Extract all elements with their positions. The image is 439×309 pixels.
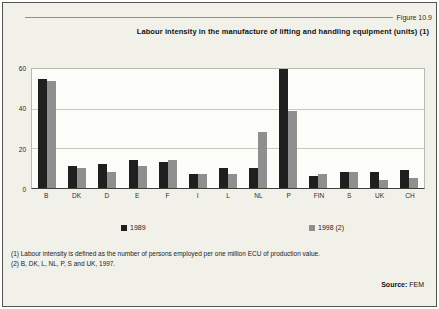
x-axis-labels: BDKDEFILNLPFINSUKCH [31, 192, 425, 199]
legend-swatch-1998 [309, 225, 315, 231]
bar-1998-P [288, 111, 297, 188]
x-label-I: I [183, 192, 213, 199]
bar-1998-D [107, 172, 116, 188]
x-label-S: S [334, 192, 364, 199]
bar-1989-P [279, 69, 288, 188]
legend-label-1998: 1998 (2) [318, 224, 344, 231]
y-tick-0: 0 [22, 186, 26, 193]
bar-group-DK [62, 69, 92, 188]
y-tick-20: 20 [19, 145, 26, 152]
legend-swatch-1989 [121, 225, 127, 231]
x-label-CH: CH [395, 192, 425, 199]
figure-header: Figure 10.9 [25, 14, 432, 21]
bar-1989-FIN [309, 176, 318, 188]
bar-1998-B [47, 81, 56, 188]
bar-1998-NL [258, 132, 267, 188]
bar-1998-E [138, 166, 147, 188]
bar-1998-I [198, 174, 207, 188]
bar-1989-I [189, 174, 198, 188]
bar-group-UK [364, 69, 394, 188]
bar-group-S [334, 69, 364, 188]
bar-1998-L [228, 174, 237, 188]
legend-label-1989: 1989 [130, 224, 146, 231]
x-label-DK: DK [61, 192, 91, 199]
x-label-D: D [92, 192, 122, 199]
bar-group-P [273, 69, 303, 188]
bar-group-FIN [303, 69, 333, 188]
source-label: Source: [381, 281, 407, 288]
bar-group-F [153, 69, 183, 188]
bar-1998-UK [379, 180, 388, 188]
bar-group-NL [243, 69, 273, 188]
source: Source: FEM [381, 281, 424, 288]
bar-1989-L [219, 168, 228, 188]
x-label-F: F [152, 192, 182, 199]
footnotes: (1) Labour intensity is defined as the n… [11, 249, 428, 268]
figure-number: Figure 10.9 [397, 14, 432, 21]
x-label-E: E [122, 192, 152, 199]
bar-1989-CH [400, 170, 409, 188]
x-label-FIN: FIN [304, 192, 334, 199]
x-label-B: B [31, 192, 61, 199]
bar-1998-FIN [318, 174, 327, 188]
footnote-1: (1) Labour intensity is defined as the n… [11, 249, 428, 259]
x-label-P: P [274, 192, 304, 199]
bar-group-I [183, 69, 213, 188]
legend-item-1989: 1989 [121, 224, 146, 231]
bar-1989-F [159, 162, 168, 188]
bar-1989-D [98, 164, 107, 188]
bar-1989-S [340, 172, 349, 188]
bar-1998-CH [409, 178, 418, 188]
bar-1989-NL [249, 168, 258, 188]
bar-group-CH [394, 69, 424, 188]
bar-1998-S [349, 172, 358, 188]
x-label-L: L [213, 192, 243, 199]
footnote-2: (2) B, DK, L, NL, P, S and UK, 1997. [11, 259, 428, 269]
bar-1989-B [38, 79, 47, 188]
bar-1998-DK [77, 168, 86, 188]
source-value: FEM [409, 281, 424, 288]
plot-area [31, 68, 425, 189]
y-tick-60: 60 [19, 65, 26, 72]
bar-group-D [92, 69, 122, 188]
bars-container [32, 69, 424, 188]
figure-frame: Figure 10.9 Labour intensity in the manu… [2, 2, 437, 307]
x-label-UK: UK [364, 192, 394, 199]
chart-title: Labour intensity in the manufacture of l… [137, 27, 429, 36]
bar-1989-UK [370, 172, 379, 188]
x-label-NL: NL [243, 192, 273, 199]
bar-group-B [32, 69, 62, 188]
y-axis: 0204060 [5, 68, 28, 189]
legend-item-1998: 1998 (2) [309, 224, 344, 231]
bar-1998-F [168, 160, 177, 188]
bar-1989-E [129, 160, 138, 188]
bar-1989-DK [68, 166, 77, 188]
y-tick-40: 40 [19, 105, 26, 112]
bar-group-E [122, 69, 152, 188]
bar-group-L [213, 69, 243, 188]
header-rule [25, 17, 393, 18]
